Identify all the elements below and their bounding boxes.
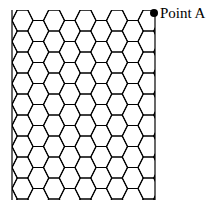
point-a-dot: [150, 9, 158, 17]
honeycomb-diagram: [0, 0, 218, 211]
point-a-label: Point A: [160, 5, 205, 22]
figure-root: — —— —— — —— Point A: [0, 0, 218, 211]
